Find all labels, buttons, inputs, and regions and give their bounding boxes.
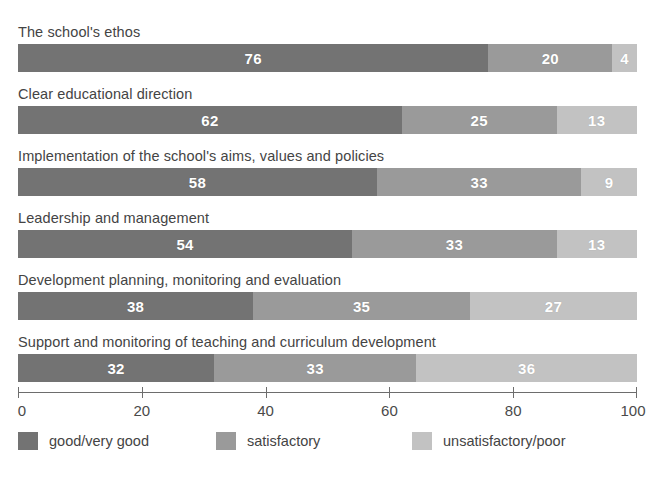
category-label: Clear educational direction bbox=[18, 84, 192, 106]
axis-tick bbox=[636, 387, 637, 398]
axis-tick bbox=[18, 387, 19, 398]
bar-segment-unsatisfactory-poor: 27 bbox=[470, 292, 637, 320]
segment-value-label: 9 bbox=[605, 174, 614, 191]
category-label: Support and monitoring of teaching and c… bbox=[18, 332, 436, 354]
segment-value-label: 38 bbox=[127, 298, 144, 315]
chart-row: Implementation of the school's aims, val… bbox=[18, 146, 637, 208]
axis-tick-label: 0 bbox=[18, 402, 26, 419]
x-axis-line bbox=[18, 392, 637, 393]
stacked-bar: 383527 bbox=[18, 292, 637, 320]
bar-segment-good-very-good: 62 bbox=[18, 106, 402, 134]
legend-swatch-icon bbox=[216, 432, 236, 450]
axis-tick bbox=[513, 387, 514, 398]
category-label: The school's ethos bbox=[18, 22, 140, 44]
bar-segment-satisfactory: 25 bbox=[402, 106, 557, 134]
bar-segment-unsatisfactory-poor: 13 bbox=[557, 230, 637, 258]
segment-value-label: 13 bbox=[588, 112, 605, 129]
segment-value-label: 36 bbox=[518, 360, 535, 377]
chart-row: Clear educational direction622513 bbox=[18, 84, 637, 146]
segment-value-label: 58 bbox=[189, 174, 206, 191]
axis-tick bbox=[142, 387, 143, 398]
legend-item-good-very-good[interactable]: good/very good bbox=[18, 430, 149, 452]
segment-value-label: 25 bbox=[470, 112, 487, 129]
chart-row: Leadership and management543313 bbox=[18, 208, 637, 270]
plot-area: The school's ethos76204Clear educational… bbox=[18, 22, 637, 394]
bar-segment-good-very-good: 76 bbox=[18, 44, 488, 72]
bar-segment-good-very-good: 32 bbox=[18, 354, 214, 382]
segment-value-label: 32 bbox=[107, 360, 124, 377]
bar-segment-unsatisfactory-poor: 9 bbox=[581, 168, 637, 196]
legend-item-unsatisfactory-poor[interactable]: unsatisfactory/poor bbox=[412, 430, 566, 452]
bar-segment-unsatisfactory-poor: 4 bbox=[612, 44, 637, 72]
bar-segment-satisfactory: 33 bbox=[214, 354, 416, 382]
category-label: Development planning, monitoring and eva… bbox=[18, 270, 341, 292]
chart-row: Support and monitoring of teaching and c… bbox=[18, 332, 637, 394]
bar-segment-satisfactory: 33 bbox=[352, 230, 556, 258]
segment-value-label: 4 bbox=[620, 50, 629, 67]
bar-segment-satisfactory: 20 bbox=[488, 44, 612, 72]
segment-value-label: 20 bbox=[542, 50, 559, 67]
stacked-bar-chart: The school's ethos76204Clear educational… bbox=[0, 0, 666, 481]
axis-tick bbox=[389, 387, 390, 398]
bar-segment-satisfactory: 33 bbox=[377, 168, 581, 196]
bar-segment-good-very-good: 58 bbox=[18, 168, 377, 196]
axis-tick-label: 40 bbox=[257, 402, 274, 419]
stacked-bar: 543313 bbox=[18, 230, 637, 258]
legend-label: good/very good bbox=[49, 433, 149, 449]
stacked-bar: 323336 bbox=[18, 354, 637, 382]
x-axis: 020406080100 bbox=[18, 392, 637, 432]
chart-row: The school's ethos76204 bbox=[18, 22, 637, 84]
chart-row: Development planning, monitoring and eva… bbox=[18, 270, 637, 332]
axis-tick-label: 60 bbox=[381, 402, 398, 419]
segment-value-label: 35 bbox=[353, 298, 370, 315]
segment-value-label: 33 bbox=[446, 236, 463, 253]
segment-value-label: 33 bbox=[307, 360, 324, 377]
stacked-bar: 76204 bbox=[18, 44, 637, 72]
segment-value-label: 76 bbox=[245, 50, 262, 67]
bar-segment-good-very-good: 38 bbox=[18, 292, 253, 320]
legend-item-satisfactory[interactable]: satisfactory bbox=[216, 430, 320, 452]
segment-value-label: 13 bbox=[588, 236, 605, 253]
stacked-bar: 622513 bbox=[18, 106, 637, 134]
legend-label: unsatisfactory/poor bbox=[443, 433, 566, 449]
legend-label: satisfactory bbox=[247, 433, 320, 449]
axis-tick-label: 80 bbox=[505, 402, 522, 419]
stacked-bar: 58339 bbox=[18, 168, 637, 196]
bar-segment-unsatisfactory-poor: 13 bbox=[557, 106, 637, 134]
segment-value-label: 33 bbox=[471, 174, 488, 191]
bar-segment-satisfactory: 35 bbox=[253, 292, 470, 320]
segment-value-label: 62 bbox=[201, 112, 218, 129]
category-label: Implementation of the school's aims, val… bbox=[18, 146, 384, 168]
category-label: Leadership and management bbox=[18, 208, 209, 230]
axis-tick-label: 100 bbox=[620, 402, 645, 419]
axis-tick-label: 20 bbox=[133, 402, 150, 419]
axis-tick bbox=[266, 387, 267, 398]
legend-swatch-icon bbox=[18, 432, 38, 450]
segment-value-label: 27 bbox=[545, 298, 562, 315]
segment-value-label: 54 bbox=[176, 236, 193, 253]
bar-segment-unsatisfactory-poor: 36 bbox=[416, 354, 637, 382]
legend-swatch-icon bbox=[412, 432, 432, 450]
bar-segment-good-very-good: 54 bbox=[18, 230, 352, 258]
